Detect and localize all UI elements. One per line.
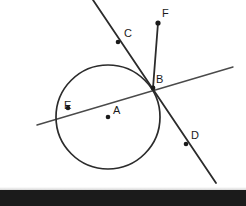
point-label-A: A	[113, 105, 120, 116]
cropped-caption-strip	[0, 190, 246, 206]
geometry-diagram	[0, 0, 246, 206]
figure-canvas: A B C D E F	[0, 0, 246, 206]
point-label-D: D	[191, 130, 199, 141]
point-dot-F	[155, 20, 160, 25]
point-label-E: E	[64, 100, 71, 111]
point-label-F: F	[162, 8, 169, 19]
point-label-C: C	[124, 28, 132, 39]
point-dot-D	[184, 142, 189, 147]
point-dot-A	[106, 115, 111, 120]
point-dot-C	[116, 40, 121, 45]
point-label-B: B	[156, 74, 163, 85]
line-EB	[37, 67, 233, 125]
line-CD	[93, 0, 216, 183]
point-dot-B	[151, 86, 156, 91]
